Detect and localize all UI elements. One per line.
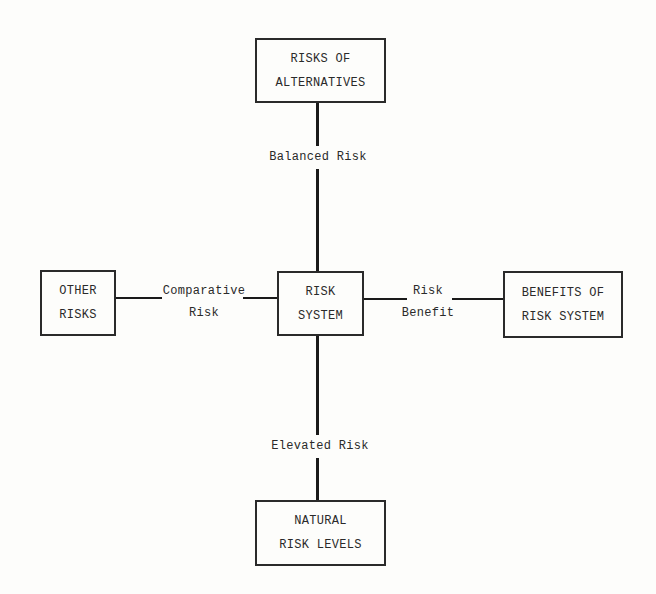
node-label-line: SYSTEM [298, 304, 343, 328]
node-benefits-of-risk-system: BENEFITS OF RISK SYSTEM [503, 271, 623, 338]
node-risks-of-alternatives: RISKS OF ALTERNATIVES [255, 38, 386, 103]
connector-bottom-lower [316, 458, 319, 500]
node-other-risks: OTHER RISKS [40, 270, 116, 336]
node-label-line: OTHER [59, 279, 97, 303]
node-label-line: RISK LEVELS [279, 533, 362, 557]
edge-label-line: Balanced Risk [258, 147, 378, 167]
connector-top-lower [316, 169, 319, 271]
node-risk-system: RISK SYSTEM [277, 271, 364, 336]
node-label-line: RISKS OF [290, 47, 350, 71]
edge-label-comparative-risk: Comparative Risk [152, 280, 256, 324]
node-label-line: RISKS [59, 303, 97, 327]
edge-label-balanced-risk: Balanced Risk [258, 147, 378, 167]
connector-bottom-upper [316, 335, 319, 435]
connector-top-upper [316, 102, 319, 146]
edge-label-line: Comparative [152, 280, 256, 302]
edge-label-line: Benefit [392, 302, 464, 324]
node-natural-risk-levels: NATURAL RISK LEVELS [255, 500, 386, 566]
node-label-line: BENEFITS OF [522, 281, 605, 305]
node-label-line: NATURAL [294, 509, 347, 533]
node-label-line: ALTERNATIVES [275, 71, 365, 95]
edge-label-risk-benefit: Risk Benefit [392, 280, 464, 324]
edge-label-line: Elevated Risk [258, 436, 382, 456]
edge-label-elevated-risk: Elevated Risk [258, 436, 382, 456]
edge-label-line: Risk [392, 280, 464, 302]
node-label-line: RISK [305, 280, 335, 304]
node-label-line: RISK SYSTEM [522, 305, 605, 329]
edge-label-line: Risk [152, 302, 256, 324]
